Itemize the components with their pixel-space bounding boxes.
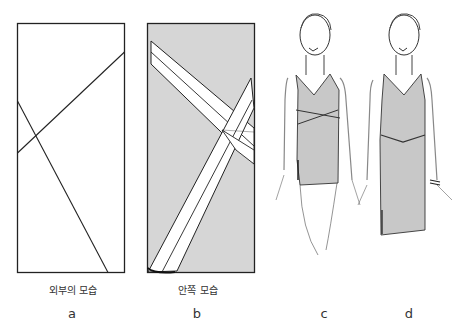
illustration	[0, 0, 474, 330]
panel-b-interior-diagram	[148, 24, 255, 273]
figure-c-wrap-top	[276, 14, 360, 255]
letter-a: a	[62, 306, 82, 321]
caption-panel-a: 외부의 모습	[45, 282, 101, 297]
figure-d-dress	[358, 14, 452, 235]
letter-c: c	[314, 306, 334, 321]
letter-d: d	[399, 306, 419, 321]
panel-a-exterior-diagram	[18, 24, 125, 273]
letter-b: b	[187, 306, 207, 321]
caption-panel-b: 안쪽 모습	[170, 282, 226, 297]
